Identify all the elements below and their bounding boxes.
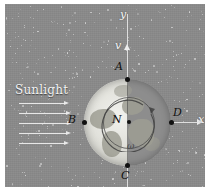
point-marker-a (125, 77, 130, 82)
sunlight-ray (19, 113, 67, 114)
velocity-label: v (115, 40, 121, 51)
earth-sunlight-diagram: Sunlight y v A B C D x N ω (0, 0, 210, 191)
point-marker-d (169, 120, 174, 125)
center-label-n: N (112, 114, 122, 125)
point-marker-c (125, 163, 130, 168)
angular-velocity-label: ω (127, 142, 134, 151)
sunlight-ray (19, 103, 65, 104)
space-background: Sunlight y v A B C D x N ω (5, 4, 205, 187)
sunlight-ray (19, 123, 68, 124)
point-label-c: C (121, 170, 129, 181)
point-marker-b (82, 120, 87, 125)
velocity-arrowhead-icon (124, 44, 130, 50)
point-marker-n (127, 120, 131, 124)
x-axis-label: x (198, 114, 204, 125)
sunlight-ray (19, 133, 67, 134)
sunlight-label: Sunlight (15, 83, 68, 97)
point-label-b: B (68, 114, 76, 125)
sunlight-ray-arrowhead-icon (66, 131, 71, 135)
sunlight-ray (19, 143, 65, 144)
point-label-a: A (115, 61, 123, 72)
point-label-d: D (173, 107, 182, 118)
sunlight-ray-arrowhead-icon (64, 141, 69, 145)
y-axis-label: y (120, 9, 126, 20)
sunlight-ray-arrowhead-icon (64, 101, 69, 105)
